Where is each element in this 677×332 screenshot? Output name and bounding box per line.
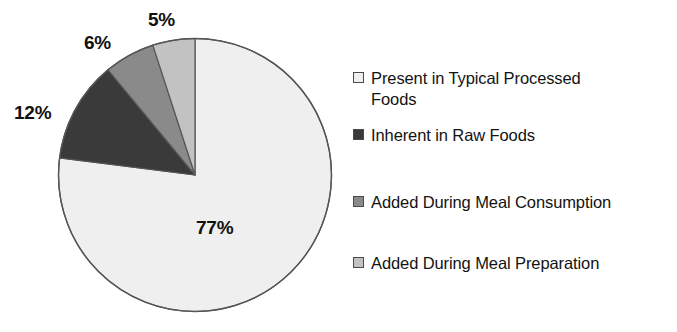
legend-item-label: Present in Typical Processed Foods xyxy=(371,68,586,110)
legend-swatch-icon xyxy=(353,129,364,140)
legend-item-label: Added During Meal Preparation xyxy=(371,253,599,274)
legend-swatch-icon xyxy=(353,196,364,207)
legend-item-label: Added During Meal Consumption xyxy=(371,192,611,213)
legend-swatch-icon xyxy=(353,72,364,83)
slice-value-label-added-during-meal-consumption: 6% xyxy=(84,33,111,52)
legend-item-inherent-in-raw-foods[interactable]: Inherent in Raw Foods xyxy=(353,125,535,146)
legend-item-added-during-meal-preparation[interactable]: Added During Meal Preparation xyxy=(353,253,599,274)
legend-item-label: Inherent in Raw Foods xyxy=(371,125,535,146)
legend-swatch-icon xyxy=(353,257,364,268)
legend-item-present-in-typical-processed-foods[interactable]: Present in Typical Processed Foods xyxy=(353,68,586,110)
slice-value-label-inherent-in-raw-foods: 12% xyxy=(14,103,51,122)
slice-value-label-present-in-typical-processed-foods: 77% xyxy=(196,218,233,237)
pie-chart-svg xyxy=(0,0,360,332)
pie-chart-page: 5% 6% 12% 77% Present in Typical Process… xyxy=(0,0,677,332)
slice-value-label-added-during-meal-preparation: 5% xyxy=(148,10,175,29)
legend-item-added-during-meal-consumption[interactable]: Added During Meal Consumption xyxy=(353,192,611,213)
pie-slice-group xyxy=(59,39,332,312)
pie-chart-area: 5% 6% 12% 77% xyxy=(0,0,360,332)
